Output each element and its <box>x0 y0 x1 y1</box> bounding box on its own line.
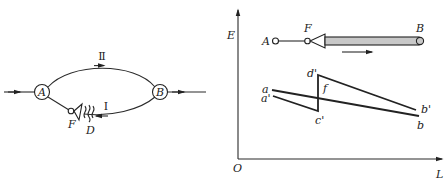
point-f-label: f <box>322 82 329 95</box>
upper-path <box>48 68 155 87</box>
point-b-prime-label: b' <box>421 103 431 116</box>
valve-icon <box>310 34 325 48</box>
upper-path-label: Ⅱ <box>98 50 105 63</box>
y-axis-label: E <box>226 29 235 42</box>
disturbance-wave-icon <box>84 105 94 122</box>
valve-pivot-icon <box>68 108 74 114</box>
energy-grade-chart: E L O A F B a a' c' d' f b' b <box>226 10 443 181</box>
line-a-prime-c-prime-d-prime-b-prime <box>273 75 416 111</box>
origin-label: O <box>233 162 242 175</box>
lower-path-label: Ⅰ <box>104 100 108 113</box>
valve-label: F <box>67 118 76 131</box>
diagram-canvas: A B Ⅱ Ⅰ F D E L O A <box>0 0 444 183</box>
point-b-label: b <box>417 119 424 132</box>
pipe-schematic: A F B <box>261 22 424 52</box>
lower-path-left <box>48 97 69 110</box>
pipe-end-node-icon <box>416 37 423 44</box>
pipe-body <box>325 37 419 45</box>
lower-path-right <box>84 97 155 115</box>
node-a-label: A <box>37 86 46 99</box>
pipe-valve-label: F <box>303 22 312 35</box>
point-d-prime-label: d' <box>307 67 317 80</box>
node-b-label: B <box>155 86 164 99</box>
disturbance-label: D <box>85 124 95 137</box>
pipe-end-label: B <box>415 22 424 35</box>
x-axis-label: L <box>435 168 443 181</box>
pipe-start-node-icon <box>273 38 279 44</box>
flow-network-diagram: A B Ⅱ Ⅰ F D <box>4 50 206 137</box>
pipe-start-label: A <box>261 35 270 48</box>
point-a-prime-label: a' <box>261 92 271 105</box>
point-c-prime-label: c' <box>315 114 324 127</box>
